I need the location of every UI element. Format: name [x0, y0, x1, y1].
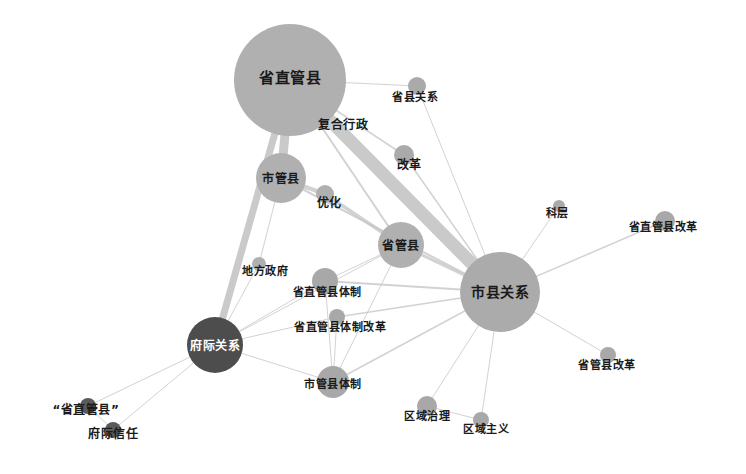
graph-node-sheng_zhi_guan_xian[interactable] [234, 24, 346, 136]
graph-node-shi_guan_xian[interactable] [256, 153, 306, 203]
graph-node-fu_ji_guan_xi[interactable] [187, 317, 243, 373]
graph-node-ke_ceng[interactable] [553, 200, 565, 212]
graph-node-sgx_gai_ge[interactable] [600, 347, 616, 363]
graph-node-shi_guan_xian_ti_zhi[interactable] [317, 366, 349, 398]
graph-node-shi_xian_guan_xi[interactable] [460, 252, 540, 332]
network-graph-canvas: 省直管县市管县省管县市县关系府际关系省县关系改革优化科层省直管县改革地方政府省直… [0, 0, 746, 474]
graph-node-qu_yu_zhu_yi[interactable] [473, 412, 489, 428]
graph-node-sheng_xian_guan_xi[interactable] [408, 77, 426, 95]
graph-node-szgx_ti_zhi[interactable] [312, 268, 338, 294]
graph-node-fu_ji_xin_ren[interactable] [105, 422, 121, 438]
graph-node-szgx_quoted[interactable] [80, 398, 96, 414]
graph-node-gai_ge[interactable] [394, 145, 414, 165]
graph-node-szgx_ti_zhi_gai_ge[interactable] [329, 309, 345, 325]
edges-layer [88, 80, 665, 430]
graph-node-sheng_zhi_guan_xian_gai_ge[interactable] [655, 211, 675, 231]
graph-node-qu_yu_zhi_li[interactable] [417, 396, 437, 416]
network-graph-svg [0, 0, 746, 474]
graph-node-sheng_guan_xian[interactable] [378, 222, 424, 268]
graph-edge [215, 245, 401, 345]
graph-node-you_hua[interactable] [316, 185, 334, 203]
graph-node-di_fang_zheng_fu[interactable] [252, 257, 266, 271]
